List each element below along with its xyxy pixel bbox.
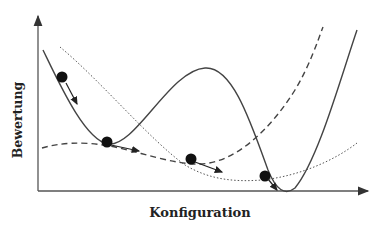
arrow-ball-1	[66, 83, 77, 104]
x-axis-label: Konfiguration	[140, 205, 260, 220]
motion-arrows	[66, 83, 277, 190]
dotted-landscape-curve	[60, 47, 357, 181]
solid-landscape-curve	[43, 30, 357, 191]
balls	[57, 72, 271, 182]
dashed-landscape-curve	[42, 27, 323, 164]
diagram-canvas	[0, 0, 385, 229]
ball-3	[186, 154, 197, 165]
ball-1	[57, 72, 68, 83]
ball-2	[102, 137, 113, 148]
arrow-ball-3	[195, 162, 222, 172]
y-axis-label: Bewertung	[10, 80, 25, 160]
